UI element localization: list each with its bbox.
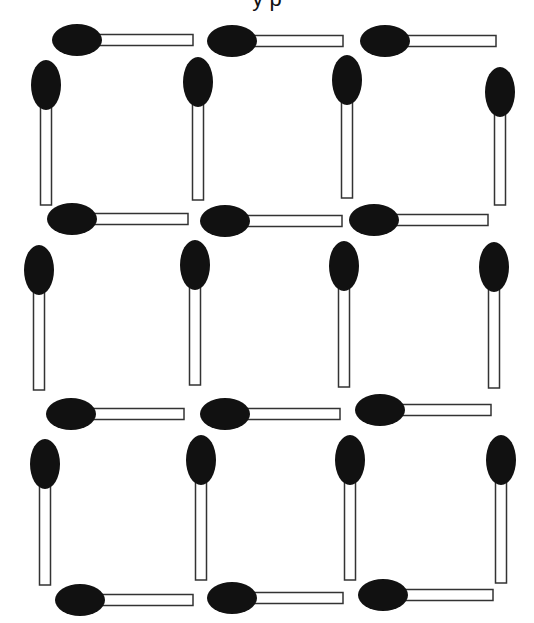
matchstick-head-icon [52, 24, 102, 56]
matchstick-head-icon [183, 57, 213, 107]
matchstick-stick [396, 215, 488, 226]
matchstick-horizontal[interactable] [349, 204, 488, 236]
matchstick-vertical[interactable] [335, 435, 365, 580]
matchstick-head-icon [332, 55, 362, 105]
matchstick-vertical[interactable] [183, 57, 213, 200]
matchstick-stick [190, 287, 201, 385]
matchstick-grid [0, 0, 534, 623]
matchstick-stick [342, 102, 353, 198]
matchstick-head-icon [355, 394, 405, 426]
matchstick-stick [34, 292, 45, 390]
matchstick-stick [193, 104, 204, 200]
matchstick-stick [247, 216, 342, 227]
matchstick-vertical[interactable] [479, 242, 509, 388]
matchstick-horizontal[interactable] [358, 579, 493, 611]
matchstick-stick [405, 590, 493, 601]
matchstick-vertical[interactable] [24, 245, 54, 390]
matchstick-horizontal[interactable] [207, 582, 343, 614]
matchstick-head-icon [46, 398, 96, 430]
matchstick-head-icon [180, 240, 210, 290]
matchstick-stick [93, 409, 184, 420]
matchstick-head-icon [24, 245, 54, 295]
matchstick-head-icon [207, 582, 257, 614]
matchstick-head-icon [485, 67, 515, 117]
matchstick-horizontal[interactable] [355, 394, 491, 426]
matchstick-stick [345, 482, 356, 580]
matchstick-stick [402, 405, 491, 416]
matchstick-head-icon [360, 25, 410, 57]
matchstick-stick [407, 36, 496, 47]
matchstick-stick [495, 114, 506, 205]
matchstick-horizontal[interactable] [207, 25, 343, 57]
matchstick-vertical[interactable] [180, 240, 210, 385]
matchstick-head-icon [486, 435, 516, 485]
matchstick-stick [196, 482, 207, 580]
matchstick-head-icon [358, 579, 408, 611]
matchstick-head-icon [30, 439, 60, 489]
matchstick-head-icon [31, 60, 61, 110]
matchstick-vertical[interactable] [332, 55, 362, 198]
matchstick-stick [489, 289, 500, 388]
matchstick-horizontal[interactable] [52, 24, 193, 56]
matchstick-head-icon [186, 435, 216, 485]
matchstick-head-icon [47, 203, 97, 235]
matchstick-stick [41, 107, 52, 205]
matchstick-horizontal[interactable] [47, 203, 188, 235]
matchstick-head-icon [207, 25, 257, 57]
matchstick-stick [94, 214, 188, 225]
matchstick-horizontal[interactable] [200, 398, 340, 430]
matchstick-head-icon [329, 241, 359, 291]
matchstick-stick [254, 593, 343, 604]
matchstick-stick [339, 288, 350, 387]
matchstick-vertical[interactable] [186, 435, 216, 580]
matchstick-horizontal[interactable] [200, 205, 342, 237]
matchstick-stick [40, 486, 51, 585]
matchstick-head-icon [335, 435, 365, 485]
matchstick-head-icon [349, 204, 399, 236]
matchstick-vertical[interactable] [485, 67, 515, 205]
matchstick-stick [254, 36, 343, 47]
matchstick-head-icon [479, 242, 509, 292]
matchstick-head-icon [200, 398, 250, 430]
matchstick-stick [99, 35, 193, 46]
matchstick-stick [102, 595, 193, 606]
matchstick-vertical[interactable] [31, 60, 61, 205]
matchstick-vertical[interactable] [30, 439, 60, 585]
matchstick-head-icon [55, 584, 105, 616]
matchstick-horizontal[interactable] [360, 25, 496, 57]
matchstick-stick [496, 482, 507, 583]
matchstick-horizontal[interactable] [55, 584, 193, 616]
matchstick-vertical[interactable] [486, 435, 516, 583]
matchstick-stick [247, 409, 340, 420]
matchstick-head-icon [200, 205, 250, 237]
matchstick-vertical[interactable] [329, 241, 359, 387]
matchstick-horizontal[interactable] [46, 398, 184, 430]
